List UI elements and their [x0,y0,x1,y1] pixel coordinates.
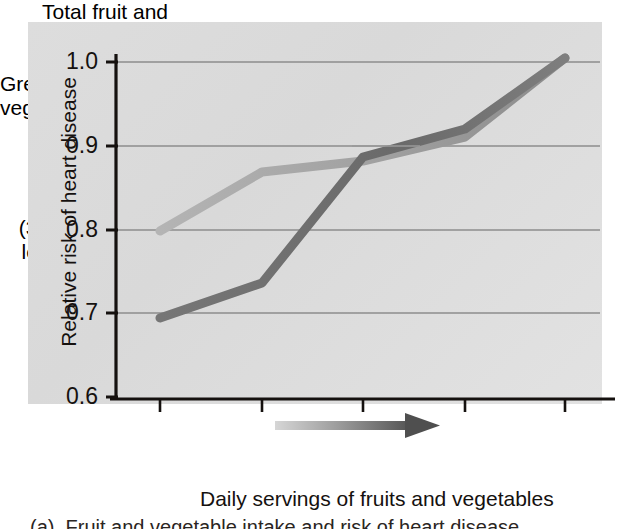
y-tick-label-1-0: 1.0 [36,48,98,74]
y-tick-label-0-6: 0.6 [36,383,98,409]
series-line-total-fruit-and-vegetable [160,58,565,231]
chart-canvas [0,0,642,529]
intake-gradient-arrow [275,413,440,438]
series-line-green-leafy-vegetable [160,58,565,318]
y-axis-title: Relative risk of heart disease [57,47,81,377]
gridlines [116,62,600,313]
y-tick-label-0-7: 0.7 [36,299,98,325]
y-tick-label-0-8: 0.8 [36,216,98,242]
y-tick-label-0-9: 0.9 [36,132,98,158]
x-axis-title: Daily servings of fruits and vegetables [200,487,620,511]
figure-caption: (a) Fruit and vegetable intake and risk … [30,516,630,529]
figure-container: Relative risk of heart disease 1.0 0.9 0… [0,0,642,529]
x-tick-marks [160,399,565,412]
